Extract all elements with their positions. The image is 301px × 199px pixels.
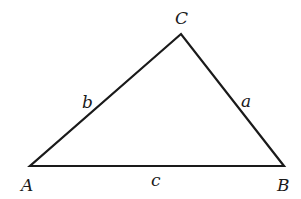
side-label-b: b [82,92,93,112]
side-label-a: a [241,91,251,111]
vertex-label-a: A [19,175,33,195]
vertex-label-c: C [175,8,188,28]
triangle-diagram: C A B b a c [0,0,301,199]
vertex-label-b: B [276,175,290,195]
side-label-c: c [151,170,161,190]
